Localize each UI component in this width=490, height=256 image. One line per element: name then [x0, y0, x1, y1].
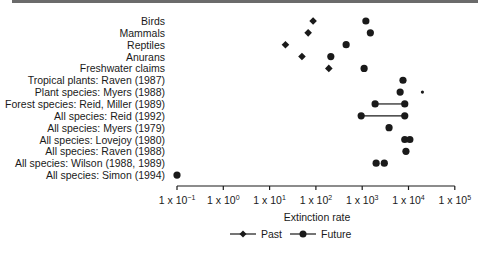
- future-circle-marker: [362, 17, 369, 24]
- past-diamond-marker: [282, 41, 290, 49]
- future-circle-marker: [361, 65, 368, 72]
- future-circle-marker: [401, 112, 408, 119]
- future-circle-marker: [406, 136, 413, 143]
- legend-item-future: Future: [290, 228, 351, 240]
- future-circle-marker: [399, 77, 406, 84]
- future-circle-marker: [421, 91, 424, 94]
- legend-label-future: Future: [321, 228, 351, 240]
- past-diamond-marker: [298, 53, 306, 61]
- future-circle-marker: [327, 53, 334, 60]
- past-diamond-marker: [304, 29, 312, 37]
- diamond-marker-icon: [230, 229, 256, 239]
- legend-label-past: Past: [261, 228, 282, 240]
- future-circle-marker: [372, 100, 379, 107]
- x-tick-label: 1 x 105: [439, 194, 472, 206]
- past-diamond-marker: [325, 65, 333, 73]
- future-circle-marker: [385, 124, 392, 131]
- x-tick-label: 1 x 102: [300, 194, 333, 206]
- future-circle-marker: [173, 171, 180, 178]
- x-tick-label: 1 x 100: [207, 194, 240, 206]
- circle-marker-icon: [290, 229, 316, 239]
- x-tick-label: 1 x 101: [253, 194, 286, 206]
- x-axis-label: Extinction rate: [284, 211, 351, 223]
- x-tick-label: 1 x 104: [392, 194, 425, 206]
- plot-area: [0, 0, 490, 256]
- x-tick-label: 1 x 10−1: [159, 194, 196, 206]
- x-tick-label: 1 x 103: [346, 194, 379, 206]
- future-circle-marker: [381, 160, 388, 167]
- future-circle-marker: [367, 29, 374, 36]
- future-circle-marker: [402, 148, 409, 155]
- legend: Past Future: [230, 227, 359, 241]
- future-circle-marker: [401, 100, 408, 107]
- past-diamond-marker: [309, 17, 317, 25]
- future-circle-marker: [358, 112, 365, 119]
- future-circle-marker: [373, 160, 380, 167]
- legend-item-past: Past: [230, 228, 282, 240]
- future-circle-marker: [343, 41, 350, 48]
- future-circle-marker: [397, 89, 404, 96]
